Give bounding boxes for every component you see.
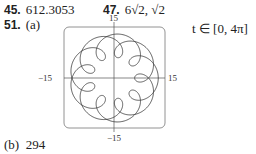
answer-part: (b)	[4, 137, 19, 152]
plot-frame	[64, 27, 165, 128]
tick-top: 15	[109, 13, 118, 23]
tick-right: 15	[168, 73, 177, 83]
answer-value: 294	[26, 137, 46, 152]
answer-51b: (b) 294	[4, 138, 45, 152]
tick-bottom: −15	[107, 133, 121, 143]
tick-left: −15	[38, 73, 52, 83]
